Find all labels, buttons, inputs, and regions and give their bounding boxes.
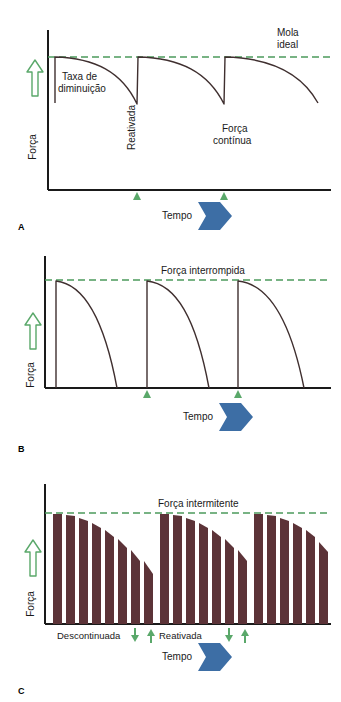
bar — [144, 561, 153, 624]
reactivation-tick-b-1 — [143, 390, 151, 398]
bar — [225, 539, 234, 624]
bar — [118, 539, 127, 624]
y-axis-label-b: Força — [25, 362, 36, 388]
panel-b: Força Força interrompida Tempo B — [0, 240, 341, 462]
panel-letter-c: C — [18, 686, 25, 696]
reactivated-label-c: Reativada — [159, 630, 202, 641]
bar — [238, 550, 247, 624]
reactivation-tick-a-1 — [133, 192, 141, 200]
bar — [254, 514, 263, 624]
bar — [53, 514, 62, 624]
x-axis-label-c: Tempo — [162, 651, 192, 662]
ideal-spring-label-line2: ideal — [277, 39, 298, 50]
bar — [105, 530, 114, 624]
bar — [319, 542, 328, 624]
ideal-spring-label-line1: Mola — [277, 27, 299, 38]
bar-group-3 — [254, 514, 328, 624]
force-axis-arrow-a — [27, 60, 43, 96]
decay-rate-label-line1: Taxa de — [62, 71, 97, 82]
reactivation-tick-a-2 — [220, 192, 228, 200]
bar — [173, 515, 182, 624]
continuous-force-label-line1: Força — [222, 123, 248, 134]
time-direction-arrow-b — [219, 403, 253, 431]
bar-group-1 — [53, 514, 153, 624]
marker-arrow-up-2 — [241, 629, 249, 643]
bar — [186, 518, 195, 624]
time-direction-arrow-c — [198, 643, 232, 671]
force-axis-arrow-b — [25, 313, 41, 349]
bar — [280, 518, 289, 624]
bar — [79, 518, 88, 624]
force-curve-b-1 — [56, 281, 117, 388]
force-axis-arrow-c — [25, 540, 41, 576]
y-axis-label-c: Força — [25, 591, 36, 617]
marker-arrow-down-1 — [131, 628, 139, 642]
y-axis-label-a: Força — [27, 134, 38, 160]
decay-rate-label-line2: diminuição — [58, 83, 106, 94]
bar — [293, 523, 302, 624]
continuous-force-label-line2: contínua — [213, 135, 252, 146]
bar — [199, 523, 208, 624]
x-axis-label-b: Tempo — [183, 411, 213, 422]
panel-c: Força Força intermitente Descontinuada R… — [0, 462, 341, 702]
reactivation-tick-b-2 — [234, 390, 242, 398]
interrupted-force-label: Força interrompida — [161, 265, 245, 276]
force-curve-b-3 — [238, 281, 304, 388]
x-axis-label-a: Tempo — [162, 210, 192, 221]
panel-letter-a: A — [18, 222, 25, 232]
intermittent-force-label: Força intermitente — [158, 498, 239, 509]
bar — [267, 515, 276, 624]
marker-arrow-down-2 — [225, 628, 233, 642]
force-curve-b-2 — [147, 281, 209, 388]
bar — [66, 515, 75, 624]
panel-a: Força Mola ideal Taxa de diminuição Reat… — [0, 0, 341, 240]
bar — [131, 550, 140, 624]
bar — [160, 514, 169, 624]
reactivated-label-a: Reativada — [126, 105, 137, 150]
bar-group-2 — [160, 514, 247, 624]
marker-arrow-up-1 — [147, 629, 155, 643]
force-time-figure: Força Mola ideal Taxa de diminuição Reat… — [0, 0, 341, 702]
discontinued-label: Descontinuada — [57, 630, 121, 641]
bar — [306, 530, 315, 624]
bar — [212, 530, 221, 624]
bar — [92, 523, 101, 624]
time-direction-arrow-a — [198, 202, 232, 230]
panel-letter-b: B — [18, 444, 25, 454]
